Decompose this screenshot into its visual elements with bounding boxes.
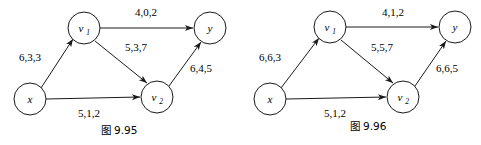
network-diagram-left: x v 1 v 2 y 6,3,3 4,0,2 5,3,7 6,4,5 5,1,… <box>0 0 240 145</box>
node-v2-label: v <box>398 91 403 103</box>
node-v1-circle <box>314 11 346 43</box>
node-y-label: y <box>452 21 458 33</box>
node-v2-circle <box>387 81 419 113</box>
edge-label-x-v1: 6,6,3 <box>259 51 282 63</box>
edge-label-v1-v2: 5,3,7 <box>125 41 148 53</box>
node-v1-label: v <box>325 21 330 33</box>
edge-x-to-v2 <box>46 97 140 99</box>
node-v1-subscript: 1 <box>86 28 90 37</box>
edge-x-to-v2 <box>286 97 386 99</box>
edge-label-v1-y: 4,0,2 <box>135 6 157 18</box>
figure-9-95: x v 1 v 2 y 6,3,3 4,0,2 5,3,7 6,4,5 5,1,… <box>0 0 240 145</box>
edges-group-left <box>41 28 201 99</box>
node-y-label: y <box>207 22 213 34</box>
edge-label-v2-y: 6,4,5 <box>190 62 213 74</box>
figure-caption-left: 图 9.95 <box>101 124 138 136</box>
edges-group-right <box>281 27 446 99</box>
edge-label-v1-y: 4,1,2 <box>382 6 404 18</box>
figure-pair-page: x v 1 v 2 y 6,3,3 4,0,2 5,3,7 6,4,5 5,1,… <box>0 0 481 145</box>
edge-labels-group-left: 6,3,3 4,0,2 5,3,7 6,4,5 5,1,2 <box>19 6 213 119</box>
figure-9-96: x v 1 v 2 y 6,6,3 4,1,2 5,5,7 6,6,5 5,1,… <box>240 0 481 145</box>
edge-x-to-v1 <box>41 39 73 88</box>
node-v2-subscript: 2 <box>159 97 163 106</box>
edge-label-v1-v2: 5,5,7 <box>371 41 394 53</box>
edge-label-x-v2: 5,1,2 <box>324 107 346 119</box>
node-v1-subscript: 1 <box>332 27 336 36</box>
node-x-label: x <box>267 93 273 105</box>
node-v2-circle <box>141 81 173 113</box>
figure-caption-right: 图 9.96 <box>350 120 387 132</box>
edge-labels-group-right: 6,6,3 4,1,2 5,5,7 6,6,5 5,1,2 <box>259 6 459 119</box>
network-diagram-right: x v 1 v 2 y 6,6,3 4,1,2 5,5,7 6,6,5 5,1,… <box>240 0 481 145</box>
edge-label-x-v2: 5,1,2 <box>78 107 100 119</box>
node-v1-label: v <box>79 22 84 34</box>
node-v1-circle <box>68 12 100 44</box>
node-x-label: x <box>27 93 33 105</box>
edge-x-to-v1 <box>281 38 319 88</box>
node-v2-subscript: 2 <box>405 97 409 106</box>
edge-label-v2-y: 6,6,5 <box>436 62 459 74</box>
edge-label-x-v1: 6,3,3 <box>19 51 42 63</box>
node-v2-label: v <box>152 91 157 103</box>
